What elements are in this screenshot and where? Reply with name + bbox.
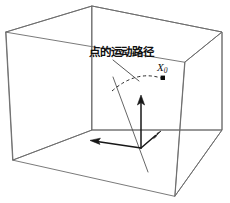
figure-canvas: 点的运动路径 X0	[0, 0, 230, 203]
axis-diagonal-shaft	[141, 136, 156, 149]
box-right-face-edge	[175, 32, 222, 196]
label-leader-line	[113, 60, 139, 81]
perspective-room-box	[6, 6, 222, 196]
coordinate-axes-triad	[90, 95, 161, 148]
box-front-left-vertical-edge	[6, 32, 13, 160]
initial-position-label-subscript: 0	[164, 66, 168, 75]
box-left-face-edge	[6, 6, 92, 160]
axis-left-shaft	[97, 142, 141, 149]
initial-position-point	[161, 76, 165, 80]
initial-position-label: X0	[157, 62, 167, 74]
box-front-right-vertical-edge	[175, 62, 185, 196]
figure-svg	[0, 0, 230, 203]
box-floor-face-edge	[13, 130, 222, 196]
tangent-direction-line	[113, 77, 148, 172]
motion-path-label: 点的运动路径	[89, 47, 154, 59]
dashed-motion-path	[112, 76, 161, 91]
axis-diagonal-arrowhead	[154, 131, 161, 139]
initial-position-label-base: X	[157, 61, 164, 73]
